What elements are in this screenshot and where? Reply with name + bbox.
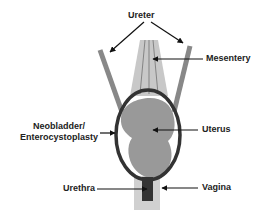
ureter-right	[174, 46, 190, 112]
label-vagina: Vagina	[202, 182, 231, 193]
ureter-arrow-right	[151, 22, 183, 43]
label-uterus: Uterus	[202, 124, 231, 135]
label-neobladder: Neobladder/ Enterocystoplasty	[18, 121, 100, 143]
label-neobladder-line1: Neobladder/	[18, 121, 100, 132]
ureter-left	[100, 50, 122, 112]
label-ureter: Ureter	[128, 10, 155, 21]
label-neobladder-line2: Enterocystoplasty	[18, 132, 100, 143]
neobladder-anatomy-diagram: Ureter Mesentery Neobladder/ Enterocysto…	[0, 0, 260, 214]
label-urethra: Urethra	[63, 183, 95, 194]
uterus-shape	[121, 98, 175, 178]
label-mesentery: Mesentery	[206, 53, 251, 64]
